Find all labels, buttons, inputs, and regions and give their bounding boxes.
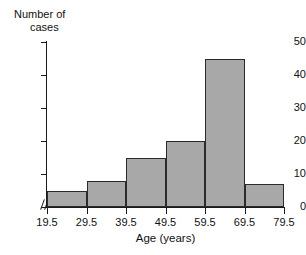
bar-69.5-79.5 <box>245 184 285 207</box>
x-tick-59.5 <box>205 207 206 214</box>
bar-19.5-29.5 <box>47 191 87 208</box>
x-tick-label-29.5: 29.5 <box>67 216 107 228</box>
x-tick-label-69.5: 69.5 <box>225 216 265 228</box>
y-axis-title-line1: Number of <box>14 8 65 20</box>
histogram-chart: Number of cases 50 40 30 20 10 0 19.5 29… <box>0 0 306 255</box>
x-axis-line <box>41 207 285 208</box>
x-tick-label-39.5: 39.5 <box>106 216 146 228</box>
bar-59.5-69.5 <box>205 59 245 208</box>
y-axis-title: Number of cases <box>14 8 124 34</box>
bar-49.5-59.5 <box>166 141 206 207</box>
x-tick-29.5 <box>87 207 88 214</box>
x-tick-label-79.5: 79.5 <box>264 216 304 228</box>
plot-area <box>47 42 284 207</box>
x-tick-49.5 <box>166 207 167 214</box>
y-axis-title-line2: cases <box>14 21 124 34</box>
x-tick-79.5 <box>284 207 285 214</box>
x-tick-label-49.5: 49.5 <box>146 216 186 228</box>
bar-39.5-49.5 <box>126 158 166 208</box>
x-tick-label-59.5: 59.5 <box>185 216 225 228</box>
x-tick-label-19.5: 19.5 <box>27 216 67 228</box>
x-tick-39.5 <box>126 207 127 214</box>
x-tick-69.5 <box>245 207 246 214</box>
x-tick-19.5 <box>47 207 48 214</box>
bar-29.5-39.5 <box>87 181 127 207</box>
x-axis-title: Age (years) <box>47 232 284 244</box>
